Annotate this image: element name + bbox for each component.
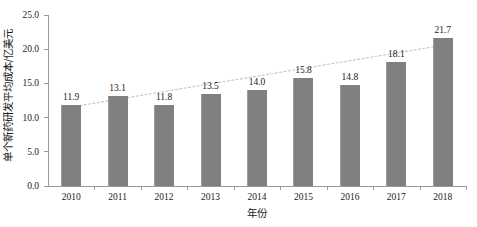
y-tick-label: 15.0 <box>0 78 39 88</box>
bar <box>293 78 313 186</box>
bar <box>433 38 453 186</box>
bar-value-label: 11.8 <box>156 92 172 102</box>
bar <box>108 96 128 186</box>
x-axis-title: 年份 <box>48 205 466 220</box>
x-tick-mark <box>280 186 281 190</box>
x-tick-label: 2011 <box>108 192 127 202</box>
bar <box>61 105 81 186</box>
bar-value-label: 14.0 <box>249 77 266 87</box>
bar-value-label: 14.8 <box>342 72 359 82</box>
bar <box>386 62 406 186</box>
bar-value-label: 21.7 <box>434 25 451 35</box>
x-tick-label: 2016 <box>340 192 359 202</box>
bar <box>154 105 174 186</box>
x-tick-mark <box>327 186 328 190</box>
x-tick-mark <box>234 186 235 190</box>
bar <box>340 85 360 186</box>
bar-value-label: 18.1 <box>388 49 405 59</box>
bar <box>201 94 221 186</box>
y-axis-title: 单个新药研发平均成本/亿美元 <box>0 0 16 190</box>
bar-value-label: 13.5 <box>202 81 219 91</box>
x-tick-mark <box>187 186 188 190</box>
x-tick-mark <box>420 186 421 190</box>
x-tick-label: 2017 <box>387 192 406 202</box>
bar <box>247 90 267 186</box>
bar-chart-figure: 单个新药研发平均成本/亿美元 0.05.010.015.020.025.0 20… <box>0 0 477 227</box>
y-tick-label: 5.0 <box>0 147 39 157</box>
x-tick-label: 2012 <box>155 192 174 202</box>
x-tick-label: 2015 <box>294 192 313 202</box>
x-tick-mark <box>94 186 95 190</box>
y-tick-label: 0.0 <box>0 181 39 191</box>
x-tick-label: 2018 <box>433 192 452 202</box>
x-tick-mark <box>466 186 467 190</box>
y-tick-label: 20.0 <box>0 44 39 54</box>
bar-value-label: 11.9 <box>63 92 79 102</box>
x-tick-mark <box>141 186 142 190</box>
bar-value-label: 15.8 <box>295 65 312 75</box>
x-tick-label: 2010 <box>62 192 81 202</box>
x-tick-label: 2014 <box>248 192 267 202</box>
bar-value-label: 13.1 <box>109 83 126 93</box>
x-axis-line <box>48 186 466 187</box>
y-tick-label: 10.0 <box>0 113 39 123</box>
x-tick-mark <box>373 186 374 190</box>
y-tick-label: 25.0 <box>0 10 39 20</box>
bars-container: 11.913.111.813.514.015.814.818.121.7 <box>48 15 466 186</box>
x-tick-label: 2013 <box>201 192 220 202</box>
